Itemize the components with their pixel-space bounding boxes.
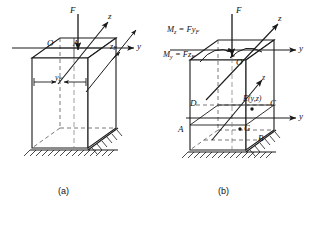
point-g-marker [238, 127, 241, 130]
moment-z-expression: = Fy [176, 24, 195, 34]
panel-b-corner-c-label: C [270, 99, 276, 108]
panel-b-axis-z-top-label: z [278, 14, 282, 23]
panel-b-point-g-label: G [244, 124, 250, 133]
figure-container: O A F z y zF yF Mz = FyF My = FzF F z y … [0, 0, 327, 230]
panel-b-force-label: F [236, 6, 242, 15]
panel-a-yf-label: yF [55, 74, 62, 83]
panel-b-axis-z-mid-label: z [262, 74, 265, 82]
moment-y-expression: = Fz [173, 49, 192, 59]
panel-b-axis-y-top-label: y [299, 44, 303, 53]
panel-b-corner-d-label: D [190, 99, 197, 108]
panel-a-axis-z-label: z [108, 12, 112, 21]
caption-b: (b) [218, 186, 229, 196]
panel-a-point-a-label: A [73, 39, 79, 48]
panel-b-moment-z-label: Mz = FyF [167, 25, 199, 35]
moment-y-expression-sub: F [191, 54, 195, 60]
panel-a-axis-y-label: y [137, 42, 141, 51]
panel-b-point-e-label: E(y,z) [243, 95, 261, 103]
panel-a-origin-label: O [47, 39, 54, 48]
panel-a-force-label: F [70, 6, 76, 15]
moment-z-expression-sub: F [195, 29, 199, 35]
point-e-marker [250, 107, 253, 110]
panel-b-origin-label: O [236, 58, 243, 67]
panel-a-block [32, 38, 116, 148]
panel-b-moment-y-label: My = FzF [163, 50, 195, 60]
diagram-canvas [0, 0, 327, 230]
panel-a-zf-label: zF [110, 43, 117, 52]
panel-b-corner-b-label: B [258, 134, 264, 143]
panel-b-axis-y-mid-label: y [299, 112, 303, 121]
panel-a-yf-sub: F [59, 76, 63, 82]
caption-a: (a) [58, 186, 69, 196]
panel-a-zf-sub: F [113, 45, 117, 51]
panel-b-corner-a-label: A [178, 125, 184, 134]
